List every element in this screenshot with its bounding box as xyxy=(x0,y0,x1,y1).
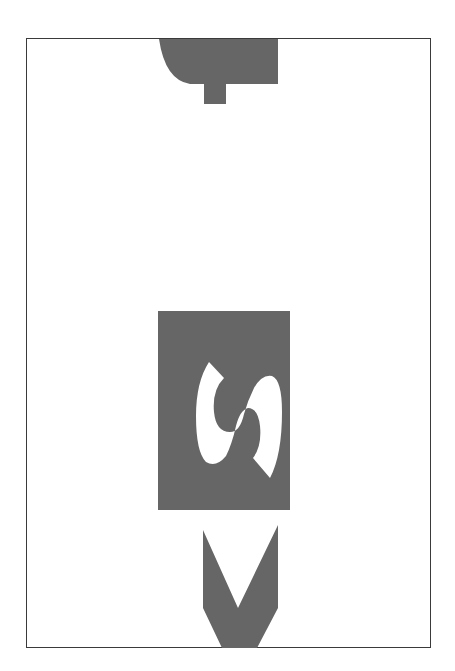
pictogram xyxy=(0,0,455,671)
chevron-down-icon xyxy=(203,525,278,648)
top-block-icon xyxy=(159,39,278,104)
letter-s-icon xyxy=(158,311,290,510)
